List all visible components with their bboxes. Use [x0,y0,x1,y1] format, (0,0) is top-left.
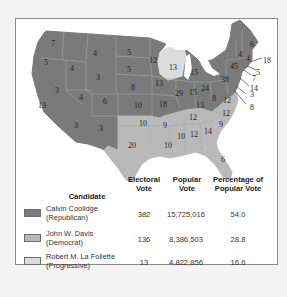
swatch-republican [24,209,41,217]
la-follette-percent: 16.6 [218,258,258,267]
candidate-davis: John W. Davis (Democrat) [46,230,93,247]
header-electoral-vote: Electoral Vote [122,176,166,193]
coolidge-percent: 54.0 [218,210,258,219]
results-legend-table: Candidate Electoral Vote Popular Vote Pe… [0,0,287,297]
swatch-democrat [24,234,41,242]
header-candidate: Candidate [57,193,117,202]
candidate-la-follette: Robert M. La Follette (Progressive) [46,253,115,270]
davis-electoral: 136 [128,235,160,244]
coolidge-popular: 15,725,016 [160,210,212,219]
davis-popular: 8,386,503 [160,235,212,244]
candidate-coolidge: Calvin Coolidge (Republican) [46,205,98,222]
la-follette-electoral: 13 [128,258,160,267]
swatch-progressive [24,257,41,265]
coolidge-electoral: 382 [128,210,160,219]
header-popular-vote: Popular Vote [166,176,208,193]
davis-percent: 28.8 [218,235,258,244]
header-percentage-popular-vote: Percentage of Popular Vote [206,176,270,193]
la-follette-popular: 4,822,856 [160,258,212,267]
